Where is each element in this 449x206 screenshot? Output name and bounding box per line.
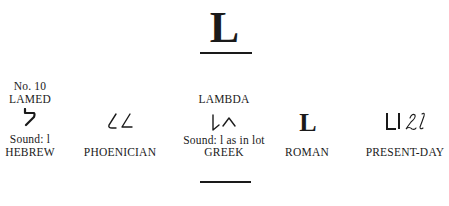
roman-glyph: L bbox=[248, 110, 368, 136]
letter-name-greek: LAMBDA bbox=[164, 93, 284, 106]
title-underline bbox=[200, 52, 252, 54]
present-day-letters-icon bbox=[384, 111, 428, 133]
bottom-rule bbox=[200, 181, 251, 183]
hebrew-lamed-icon bbox=[22, 108, 38, 128]
label-present-day: PRESENT-DAY bbox=[345, 146, 449, 159]
letter-number: No. 10 bbox=[0, 80, 90, 93]
title-letter: L bbox=[0, 6, 449, 50]
greek-lambda-icon bbox=[210, 113, 238, 133]
sound-hebrew: Sound: l bbox=[0, 133, 90, 146]
letter-name: LAMED bbox=[0, 93, 90, 106]
label-phoenician: PHOENICIAN bbox=[60, 146, 180, 159]
phoenician-lamed-icon bbox=[106, 112, 136, 134]
column-hebrew: No. 10 LAMED bbox=[0, 80, 90, 128]
